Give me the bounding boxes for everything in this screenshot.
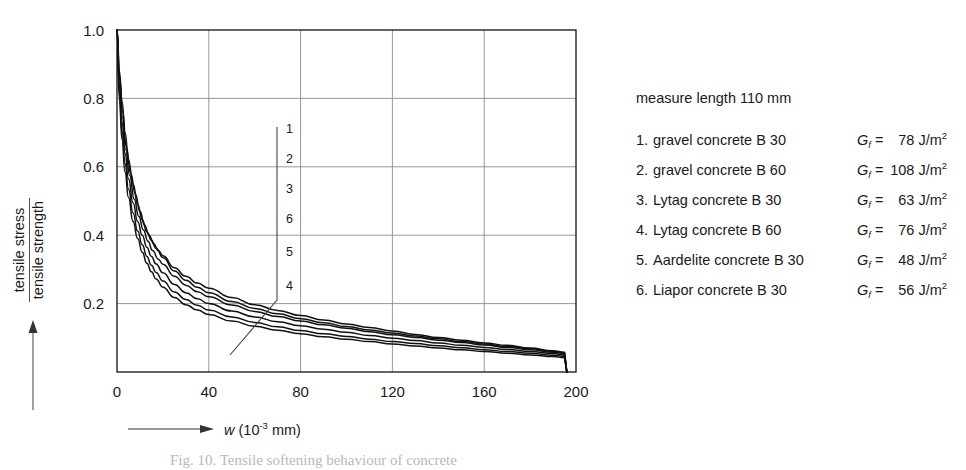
gf-symbol: G: [857, 282, 868, 298]
gf-unit-exponent: 2: [942, 250, 947, 261]
gf-value: 48: [887, 252, 914, 268]
y-tick-label: 0.6: [83, 158, 104, 175]
y-tick-label: 0.4: [83, 227, 104, 244]
legend-item-label: Aardelite concrete B 30: [653, 252, 857, 268]
y-axis-arrow-icon: [22, 318, 44, 410]
x-tick-label: 0: [113, 383, 121, 400]
gf-unit: J/m2: [914, 190, 947, 208]
curve-callout-labels: 123654: [286, 122, 293, 293]
x-tick-label: 160: [472, 383, 497, 400]
legend-item: 2.gravel concrete B 60Gf=108J/m2: [636, 160, 966, 190]
legend-title: measure length 110 mm: [636, 90, 966, 106]
gf-unit-base: J/m: [918, 192, 941, 208]
legend-item: 5.Aardelite concrete B 30Gf=48J/m2: [636, 250, 966, 280]
gf-unit-base: J/m: [918, 132, 941, 148]
legend-item-fracture-energy: Gf=63J/m2: [857, 190, 947, 208]
x-tick-label: 200: [563, 383, 588, 400]
legend-item-label: gravel concrete B 30: [653, 132, 857, 148]
y-axis-denominator: tensile strength: [30, 198, 47, 302]
gf-unit-base: J/m: [918, 252, 941, 268]
legend-item-index: 2.: [636, 162, 653, 178]
legend-item-fracture-energy: Gf=56J/m2: [857, 280, 947, 298]
gf-symbol: G: [857, 252, 868, 268]
gf-unit-base: J/m: [918, 162, 941, 178]
gf-unit-base: J/m: [918, 222, 941, 238]
legend-item: 3.Lytag concrete B 30Gf=63J/m2: [636, 190, 966, 220]
y-axis-numerator: tensile stress: [12, 205, 29, 296]
chart-tick-labels: 040801201602000.20.40.60.81.0: [83, 22, 588, 401]
legend-item-label: Lytag concrete B 60: [653, 222, 857, 238]
gf-value: 108: [887, 162, 914, 178]
chart-gridlines: [117, 30, 576, 372]
legend-rows: 1.gravel concrete B 30Gf=78J/m22.gravel …: [636, 130, 966, 310]
gf-symbol: G: [857, 192, 868, 208]
gf-equals: =: [871, 222, 887, 238]
gf-unit-exponent: 2: [942, 190, 947, 201]
gf-value: 78: [887, 132, 914, 148]
y-axis-fraction: tensile stress tensile strength: [12, 198, 46, 302]
curve-6: [117, 30, 567, 372]
gf-equals: =: [871, 282, 887, 298]
legend-item: 1.gravel concrete B 30Gf=78J/m2: [636, 130, 966, 160]
legend-item-label: Liapor concrete B 30: [653, 282, 857, 298]
callout-label-3: 3: [286, 182, 293, 196]
gf-subscript: f: [868, 259, 871, 270]
gf-value: 63: [887, 192, 914, 208]
callout-label-1: 1: [286, 122, 293, 136]
gf-value: 76: [887, 222, 914, 238]
gf-subscript: f: [868, 199, 871, 210]
legend-item-index: 4.: [636, 222, 653, 238]
gf-equals: =: [871, 252, 887, 268]
legend-item: 4.Lytag concrete B 60Gf=76J/m2: [636, 220, 966, 250]
x-tick-label: 120: [380, 383, 405, 400]
x-axis-unit-open: (10: [234, 422, 259, 438]
figure-root: 040801201602000.20.40.60.81.0 123654 ten…: [0, 0, 966, 470]
gf-unit: J/m2: [914, 130, 947, 148]
legend-item-fracture-energy: Gf=78J/m2: [857, 130, 947, 148]
curve-1: [117, 30, 567, 372]
y-tick-label: 0.2: [83, 295, 104, 312]
gf-unit: J/m2: [914, 280, 947, 298]
tensile-softening-chart: 040801201602000.20.40.60.81.0 123654: [0, 0, 620, 415]
gf-symbol: G: [857, 162, 868, 178]
x-axis-exponent: -3: [259, 420, 267, 431]
callout-label-4: 4: [286, 279, 293, 293]
gf-subscript: f: [868, 139, 871, 150]
gf-symbol: G: [857, 222, 868, 238]
legend-item-label: gravel concrete B 60: [653, 162, 857, 178]
gf-equals: =: [871, 162, 887, 178]
legend-item-index: 6.: [636, 282, 653, 298]
legend-item-index: 3.: [636, 192, 653, 208]
gf-unit: J/m2: [914, 220, 947, 238]
curve-4: [117, 30, 567, 372]
gf-unit: J/m2: [914, 250, 947, 268]
x-axis-unit-close: mm): [268, 422, 301, 438]
gf-unit-exponent: 2: [942, 130, 947, 141]
legend-item-label: Lytag concrete B 30: [653, 192, 857, 208]
curve-3: [117, 30, 567, 372]
gf-value: 56: [887, 282, 914, 298]
legend-item-fracture-energy: Gf=48J/m2: [857, 250, 947, 268]
chart-axes-frame: [117, 30, 576, 372]
legend-item-fracture-energy: Gf=108J/m2: [857, 160, 947, 178]
x-tick-label: 40: [200, 383, 217, 400]
x-axis-arrow-icon: [128, 422, 214, 436]
callout-label-5: 5: [286, 245, 293, 259]
gf-equals: =: [871, 192, 887, 208]
callout-label-2: 2: [286, 152, 293, 166]
gf-unit-exponent: 2: [942, 280, 947, 291]
legend-item-index: 1.: [636, 132, 653, 148]
figure-caption: Fig. 10. Tensile softening behaviour of …: [170, 452, 870, 469]
x-axis-label-text: w(10-3 mm): [224, 420, 301, 438]
gf-subscript: f: [868, 229, 871, 240]
y-tick-label: 1.0: [83, 22, 104, 39]
legend-item: 6.Liapor concrete B 30Gf=56J/m2: [636, 280, 966, 310]
callout-label-6: 6: [286, 212, 293, 226]
chart-curves: [117, 30, 567, 372]
gf-unit: J/m2: [914, 160, 947, 178]
legend: measure length 110 mm 1.gravel concrete …: [636, 90, 966, 310]
x-axis-label: w(10-3 mm): [128, 420, 301, 438]
gf-subscript: f: [868, 169, 871, 180]
gf-unit-base: J/m: [918, 282, 941, 298]
y-tick-label: 0.8: [83, 90, 104, 107]
